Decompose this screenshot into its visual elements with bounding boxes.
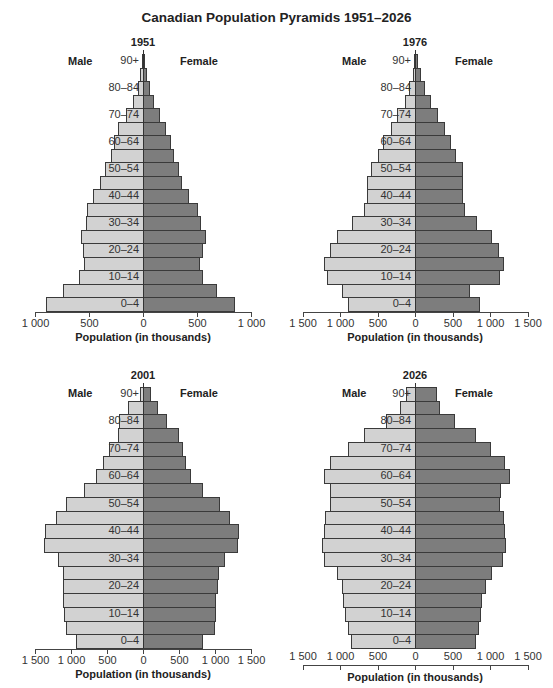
age-group-label: 40–44 [108,524,139,536]
age-group-label: 50–54 [108,497,139,509]
female-bar [415,122,445,137]
female-bar [415,593,482,608]
female-bar [143,593,216,608]
male-bar [367,176,415,191]
male-bar [400,401,415,416]
male-bar [364,428,415,443]
male-bar [44,538,143,553]
pyramid-year-title: 2026 [403,369,427,381]
male-bar [330,483,415,498]
male-bar [100,176,143,191]
female-bar [415,81,425,96]
age-group-label: 0–4 [393,297,411,309]
male-bar [118,428,143,443]
male-bar [330,456,415,471]
age-group-label: 80–84 [380,81,411,93]
female-bar [415,108,438,123]
age-group-label: 80–84 [108,81,139,93]
female-bar [415,162,463,177]
age-group-label: 30–34 [108,552,139,564]
female-bar [415,483,501,498]
male-bar [348,621,416,636]
x-tick-label: 1 500 [22,654,50,666]
x-tick [340,665,341,670]
x-tick-label: 500 [170,654,188,666]
x-tick-label: 500 [444,650,462,662]
pyramid-year-title: 1951 [131,36,155,48]
age-group-label: 20–24 [108,579,139,591]
female-bar [415,135,451,150]
female-bar [415,621,479,636]
female-bar [415,566,492,581]
female-bar [415,203,465,218]
age-group-label: 20–24 [380,579,411,591]
x-axis-title: Population (in thousands) [347,331,483,343]
age-group-label: 10–14 [380,607,411,619]
male-label: Male [68,55,92,67]
x-tick-label: 1 000 [202,654,230,666]
female-bar [143,135,171,150]
male-label: Male [342,55,366,67]
x-tick-label: 1 500 [289,650,317,662]
male-bar [405,95,416,110]
age-group-label: 40–44 [380,189,411,201]
female-bar [143,243,203,258]
age-group-label: 70–74 [108,108,139,120]
female-bar [143,607,216,622]
female-bar [415,176,463,191]
male-bar [118,122,143,137]
age-group-label: 50–54 [380,162,411,174]
male-bar [87,203,143,218]
age-group-label: 50–54 [108,162,139,174]
female-bar [415,243,499,258]
female-bar [415,149,456,164]
x-tick-label: 500 [80,317,98,329]
female-bar [415,414,455,429]
female-bar [143,414,167,429]
female-bar [143,469,191,484]
male-bar [63,284,143,299]
female-bar [415,579,486,594]
male-bar [103,456,143,471]
male-bar [133,95,143,110]
age-group-label: 30–34 [380,552,411,564]
x-tick-label: 500 [369,317,387,329]
female-bar [143,108,160,123]
x-axis-title: Population (in thousands) [347,671,483,683]
female-bar [143,579,218,594]
male-bar [84,483,143,498]
female-bar [143,95,154,110]
x-tick-label: 1 000 [238,317,266,329]
age-group-label: 70–74 [380,108,411,120]
female-bar [143,162,179,177]
age-group-label: 90+ [120,54,139,66]
female-bar [143,621,215,636]
female-label: Female [455,387,493,399]
male-bar [81,230,143,245]
female-bar [143,297,235,312]
female-bar [143,149,174,164]
male-bar [342,284,416,299]
female-label: Female [455,55,493,67]
male-bar [343,593,415,608]
female-bar [415,257,504,272]
male-bar [63,566,143,581]
female-bar [143,122,166,137]
female-bar [143,456,186,471]
female-bar [143,511,230,526]
female-bar [415,456,505,471]
x-tick-label: 500 [444,317,462,329]
female-bar [415,607,481,622]
female-bar [415,297,480,312]
chart-title: Canadian Population Pyramids 1951–2026 [0,10,553,25]
female-bar [143,483,203,498]
male-bar [56,511,143,526]
x-tick-label: 1 000 [327,650,355,662]
female-bar [415,270,500,285]
x-tick-label: 500 [98,654,116,666]
male-bar [128,401,143,416]
age-group-label: 0–4 [393,634,411,646]
x-axis-title: Population (in thousands) [75,331,211,343]
age-group-label: 90+ [392,54,411,66]
x-tick [490,665,491,670]
